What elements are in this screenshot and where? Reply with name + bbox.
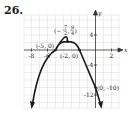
vertex-point [66,40,69,43]
tick-y-neg12: -12 [84,91,94,98]
tick-y-neg4: -4 [88,61,94,68]
y-axis-label: y [97,9,102,17]
tick-y-4: 4 [90,31,94,38]
vertex-label: (− 7 2 , 9 4 ) [54,24,77,37]
svg-text:): ) [75,27,77,34]
y-intercept-label: (0, -10) [97,84,119,91]
svg-text:,: , [68,27,70,34]
y-axis-arrow-icon [94,10,98,15]
tick-x-neg8: -8 [29,52,35,59]
x-axis-arrow-icon [118,48,123,52]
x-intercept-left-point [54,49,57,52]
x-intercept-left-label: (-5, 0) [36,42,54,49]
x-intercept-right-point [78,49,81,52]
x-intercept-right-label: (-2, 0) [60,52,78,59]
tick-x-2: 2 [110,52,114,59]
parabola-graph: x y -8 -6 2 4 -4 -12 (− 7 2 , 9 4 ) (-5,… [0,0,133,115]
x-axis-label: x [124,46,128,53]
svg-text:(−: (− [54,27,61,34]
